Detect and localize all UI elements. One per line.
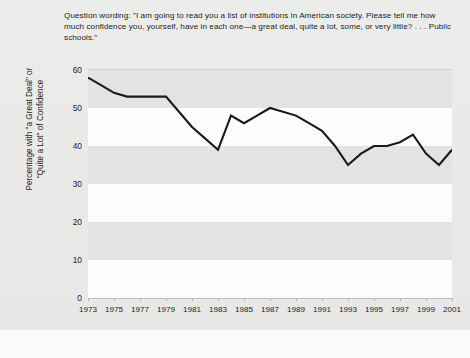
line-series-svg — [88, 70, 452, 298]
x-tick-label-1993: 1993 — [339, 305, 357, 314]
x-tick-label-1995: 1995 — [365, 305, 383, 314]
x-tick-mark-1983 — [218, 298, 219, 301]
confidence-line — [88, 78, 452, 165]
y-axis-tick-labels: 0102030405060 — [52, 70, 82, 298]
x-tick-label-1997: 1997 — [391, 305, 409, 314]
x-axis-tick-labels: 1973197519771979198119831985198719891991… — [88, 302, 452, 318]
x-tick-label-1973: 1973 — [79, 305, 97, 314]
x-tick-mark-1987 — [270, 298, 271, 301]
x-tick-mark-2001 — [452, 298, 453, 301]
y-tick-label-40: 40 — [56, 141, 82, 151]
question-wording-note: Question wording: "I am going to read yo… — [64, 10, 456, 44]
x-tick-label-1979: 1979 — [157, 305, 175, 314]
y-tick-label-50: 50 — [56, 103, 82, 113]
x-tick-mark-1999 — [426, 298, 427, 301]
x-tick-mark-1997 — [400, 298, 401, 301]
x-tick-label-1991: 1991 — [313, 305, 331, 314]
y-tick-label-20: 20 — [56, 217, 82, 227]
x-tick-mark-1981 — [192, 298, 193, 301]
page-bottom-margin — [0, 330, 470, 358]
x-tick-label-1999: 1999 — [417, 305, 435, 314]
x-tick-mark-1995 — [374, 298, 375, 301]
y-tick-label-10: 10 — [56, 255, 82, 265]
x-tick-mark-1977 — [140, 298, 141, 301]
x-tick-mark-1989 — [296, 298, 297, 301]
y-axis-title: Percentage with "a Great Deal" or "Quite… — [24, 20, 46, 238]
x-tick-label-1989: 1989 — [287, 305, 305, 314]
x-tick-label-1987: 1987 — [261, 305, 279, 314]
x-tick-mark-1975 — [114, 298, 115, 301]
chart-plot-area — [88, 70, 452, 298]
y-axis-title-line-1: Percentage with "a Great Deal" or — [24, 20, 35, 238]
x-tick-label-1977: 1977 — [131, 305, 149, 314]
y-tick-label-60: 60 — [56, 65, 82, 75]
x-tick-label-2001: 2001 — [443, 305, 461, 314]
x-tick-label-1983: 1983 — [209, 305, 227, 314]
x-tick-mark-1979 — [166, 298, 167, 301]
x-tick-label-1985: 1985 — [235, 305, 253, 314]
x-tick-label-1975: 1975 — [105, 305, 123, 314]
x-tick-mark-1973 — [88, 298, 89, 301]
y-tick-label-0: 0 — [56, 293, 82, 303]
y-tick-label-30: 30 — [56, 179, 82, 189]
x-tick-mark-1993 — [348, 298, 349, 301]
y-axis-title-line-2: "Quite a Lot" of Confidence — [35, 20, 46, 238]
x-tick-mark-1991 — [322, 298, 323, 301]
x-tick-mark-1985 — [244, 298, 245, 301]
x-tick-label-1981: 1981 — [183, 305, 201, 314]
